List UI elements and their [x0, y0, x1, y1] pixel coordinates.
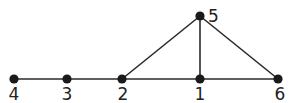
graph-canvas: 432165	[0, 0, 292, 103]
node-3	[62, 74, 71, 83]
graph-diagram: 432165	[0, 0, 292, 103]
node-label-5: 5	[208, 6, 219, 26]
node-label-4: 4	[9, 84, 20, 103]
edge-2-5	[122, 16, 200, 79]
node-2	[117, 74, 126, 83]
node-5	[195, 11, 204, 20]
node-1	[195, 74, 204, 83]
node-4	[9, 74, 18, 83]
node-label-1: 1	[195, 84, 206, 103]
node-label-2: 2	[118, 84, 129, 103]
node-label-3: 3	[62, 84, 73, 103]
node-label-6: 6	[275, 84, 286, 103]
node-6	[273, 74, 282, 83]
